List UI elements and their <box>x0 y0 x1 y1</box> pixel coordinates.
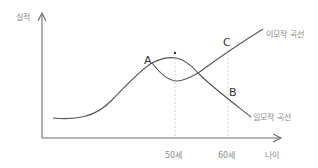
double-career-label: 이모작 곡선 <box>266 29 304 39</box>
x-tick-60: 60세 <box>218 151 235 160</box>
point-b-label: B <box>229 86 237 99</box>
point-a-label: A <box>144 54 152 67</box>
career-curve-diagram: 실적 나이 50세 60세 A B C 이모작 곡선 일모작 곡선 <box>0 0 318 168</box>
peak-dot-icon <box>174 52 176 54</box>
common-growth-curve <box>53 63 152 119</box>
point-c-label: C <box>223 36 231 49</box>
x-tick-50: 50세 <box>165 151 182 160</box>
y-axis-label: 실적 <box>16 12 30 22</box>
double-career-curve <box>152 29 263 81</box>
single-career-label: 일모작 곡선 <box>253 112 291 122</box>
x-axis-label: 나이 <box>265 150 279 160</box>
